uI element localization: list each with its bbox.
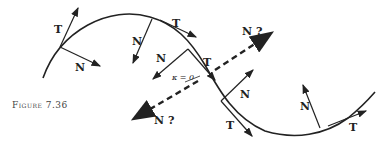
normal-question-arrow-up bbox=[215, 34, 270, 70]
normal-label-5: N bbox=[300, 100, 310, 113]
normal-label-1: N bbox=[75, 61, 85, 74]
tangent-label-3: T bbox=[203, 56, 212, 69]
normal-label-2: N bbox=[132, 35, 142, 48]
normal-question-label-down: N ? bbox=[154, 114, 174, 127]
figure-caption: Figure 7.36 bbox=[12, 100, 68, 110]
normal-question-arrow-down bbox=[135, 81, 198, 118]
tangent-label-5: T bbox=[349, 121, 358, 134]
curve-diagram: T N N T N T κ = 0 N ? N ? N T N T bbox=[0, 0, 378, 146]
normal-label-4: N bbox=[240, 88, 250, 101]
normal-question-label-up: N ? bbox=[242, 25, 262, 38]
tangent-label-4: T bbox=[226, 119, 235, 132]
curve bbox=[43, 14, 375, 135]
tangent-label-2: T bbox=[172, 17, 181, 30]
tangent-label-1: T bbox=[54, 23, 63, 36]
tangent-arrow-5 bbox=[328, 111, 366, 126]
normal-label-3: N bbox=[156, 52, 166, 65]
tangent-arrow-1 bbox=[60, 8, 78, 47]
curvature-zero-label: κ = 0 bbox=[171, 73, 194, 82]
